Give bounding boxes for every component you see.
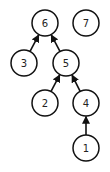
edge-2-to-5 — [51, 75, 60, 92]
node-label: 5 — [63, 58, 69, 69]
node-4: 4 — [73, 90, 99, 116]
edges — [30, 35, 86, 135]
node-1: 1 — [73, 135, 99, 161]
node-label: 4 — [83, 98, 89, 109]
node-label: 7 — [83, 18, 89, 29]
tree-diagram: 6735241 — [0, 0, 110, 172]
node-6: 6 — [32, 10, 58, 36]
edge-5-to-6 — [51, 35, 60, 52]
node-5: 5 — [53, 50, 79, 76]
node-label: 6 — [42, 18, 48, 29]
node-7: 7 — [73, 10, 99, 36]
edge-4-to-5 — [72, 75, 80, 91]
node-3: 3 — [11, 50, 37, 76]
node-label: 2 — [42, 98, 48, 109]
node-label: 1 — [83, 143, 89, 154]
node-label: 3 — [21, 58, 27, 69]
edge-3-to-6 — [30, 35, 39, 52]
node-2: 2 — [32, 90, 58, 116]
